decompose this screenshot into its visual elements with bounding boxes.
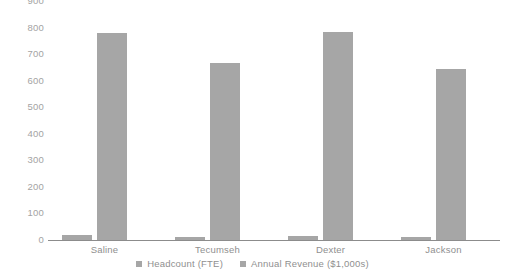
- y-axis-tick-label: 100: [4, 208, 44, 218]
- bar-group: [161, 0, 274, 240]
- axis-baseline: [48, 240, 500, 241]
- chart-legend: Headcount (FTE)Annual Revenue ($1,000s): [0, 258, 505, 269]
- x-axis-category-label: Jackson: [387, 244, 500, 255]
- legend-item[interactable]: Headcount (FTE): [136, 258, 223, 269]
- bar-revenue: [210, 63, 240, 240]
- legend-swatch-icon: [240, 261, 246, 267]
- bar-headcount: [175, 237, 205, 240]
- y-axis-tick-label: 300: [4, 155, 44, 165]
- bar-headcount: [288, 236, 318, 240]
- legend-label: Annual Revenue ($1,000s): [251, 258, 369, 269]
- x-axis-category-label: Tecumseh: [161, 244, 274, 255]
- bar-revenue: [323, 32, 353, 240]
- legend-label: Headcount (FTE): [147, 258, 223, 269]
- y-axis-tick-label: 0: [4, 235, 44, 245]
- y-axis: 9008007006005004003002001000: [0, 0, 44, 241]
- bar-chart: 9008007006005004003002001000 SalineTecum…: [0, 0, 505, 276]
- y-axis-tick-label: 900: [4, 0, 44, 6]
- y-axis-tick-label: 700: [4, 49, 44, 59]
- bar-group: [48, 0, 161, 240]
- y-axis-tick-label: 200: [4, 182, 44, 192]
- x-axis-category-label: Saline: [48, 244, 161, 255]
- bar-headcount: [401, 237, 431, 240]
- bar-headcount: [62, 235, 92, 240]
- bar-revenue: [436, 69, 466, 240]
- bar-revenue: [97, 33, 127, 240]
- bar-group: [387, 0, 500, 240]
- legend-swatch-icon: [136, 261, 142, 267]
- y-axis-tick-label: 800: [4, 23, 44, 33]
- y-axis-tick-label: 400: [4, 129, 44, 139]
- legend-item[interactable]: Annual Revenue ($1,000s): [240, 258, 369, 269]
- y-axis-tick-label: 500: [4, 102, 44, 112]
- plot-area: SalineTecumsehDexterJackson: [48, 0, 500, 241]
- bar-group: [274, 0, 387, 240]
- x-axis-category-label: Dexter: [274, 244, 387, 255]
- y-axis-tick-label: 600: [4, 76, 44, 86]
